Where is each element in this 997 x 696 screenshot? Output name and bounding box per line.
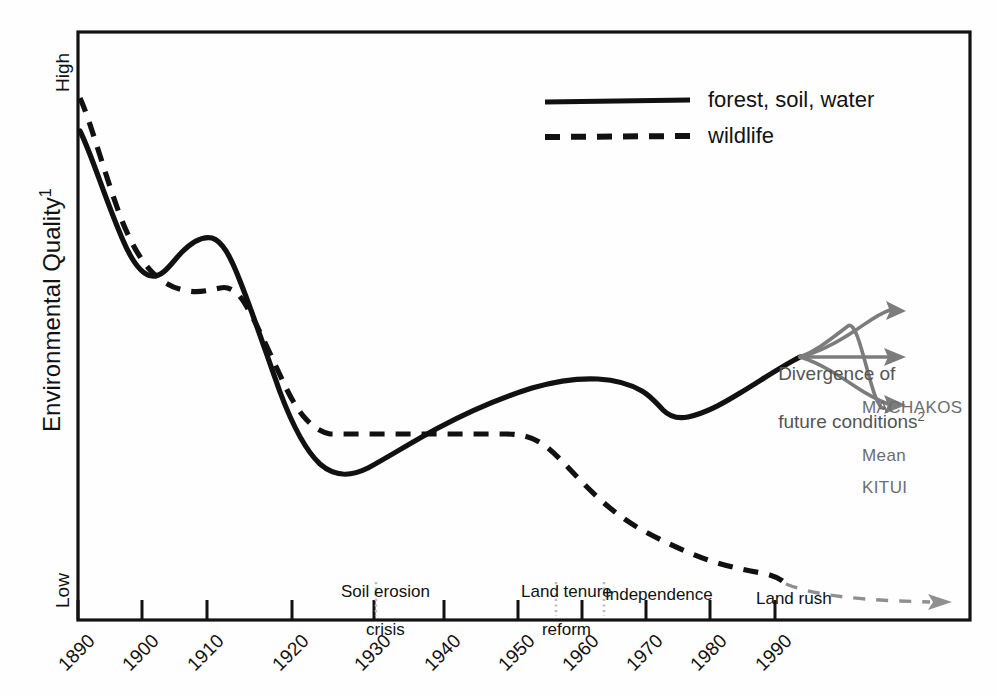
legend-swatch-dashed <box>545 136 690 137</box>
event-label-independence: Independence <box>605 585 735 604</box>
y-axis-high-label: High <box>52 53 73 92</box>
event-label-soil-erosion-line1: Soil erosion <box>341 582 430 601</box>
event-label-land-tenure-line2: reform <box>542 620 591 639</box>
event-label-land-tenure-reform: Land tenure reform <box>487 563 627 658</box>
branch-label-kitui: KITUI <box>862 478 907 497</box>
branch-label-mean: Mean <box>862 446 906 465</box>
legend-label-forest-soil-water: forest, soil, water <box>708 88 874 113</box>
branch-label-machakos: MACHAKOS <box>862 398 963 417</box>
y-axis-title-superscript: 1 <box>36 188 54 197</box>
event-label-land-rush: Land rush <box>756 589 866 608</box>
series-forest-soil-water <box>80 131 800 474</box>
y-axis-title-text: Environmental Quality <box>38 197 65 432</box>
legend-glyphs <box>545 100 690 137</box>
plot-frame <box>78 32 970 620</box>
arrowhead-wildlife-future <box>928 594 952 610</box>
legend-label-wildlife: wildlife <box>708 124 774 149</box>
divergence-title-line1: Divergence of <box>778 363 895 384</box>
event-label-land-tenure-line1: Land tenure <box>521 582 612 601</box>
y-axis-low-label: Low <box>52 573 73 608</box>
chart-figure: Environmental Quality1 High Low 1890 190… <box>0 0 997 696</box>
y-axis-title: Environmental Quality1 <box>36 30 70 590</box>
event-label-soil-erosion-crisis: Soil erosion crisis <box>306 563 446 658</box>
legend-swatch-solid <box>545 100 690 102</box>
event-label-soil-erosion-line2: crisis <box>366 620 405 639</box>
series-wildlife <box>80 98 786 584</box>
